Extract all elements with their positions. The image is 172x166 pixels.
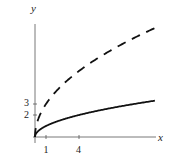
y-axis-label: y xyxy=(30,2,36,14)
chart: y x 1 4 2 3 xyxy=(0,0,172,166)
solid-curve-sqrt-x xyxy=(35,101,155,137)
y-tick-label-2: 2 xyxy=(24,109,29,120)
x-tick-label-1: 1 xyxy=(44,144,49,155)
x-axis-label: x xyxy=(157,131,163,143)
dashed-curve-3sqrt-x xyxy=(35,28,155,137)
y-tick-label-3: 3 xyxy=(24,97,29,108)
x-tick-label-4: 4 xyxy=(76,144,81,155)
